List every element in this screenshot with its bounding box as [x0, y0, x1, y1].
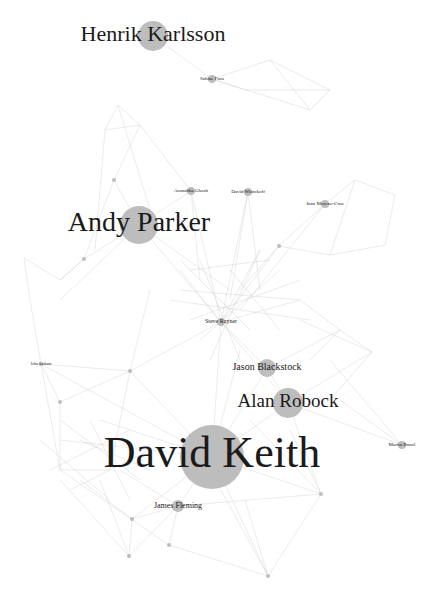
- node-label-david-keith: David Keith: [104, 428, 320, 477]
- graph-edge: [245, 500, 268, 576]
- graph-edge: [129, 506, 178, 556]
- node-label-james-fleming: James Fleming: [154, 501, 202, 510]
- graph-edge: [270, 60, 330, 90]
- graph-edge: [190, 280, 300, 320]
- node-label-juan-moreno-cruz: Juan Moreno-Cruz: [306, 201, 344, 206]
- node-label-john-latham: John Latham: [31, 361, 53, 366]
- graph-edge: [114, 125, 140, 180]
- graph-edge: [310, 330, 340, 360]
- node-small-1[interactable]: [112, 178, 116, 182]
- graph-edge: [30, 300, 41, 364]
- network-graph: Henrik KarlssonSabine FussAndy ParkerAru…: [0, 0, 443, 608]
- graph-edge: [130, 290, 150, 371]
- graph-edge: [105, 125, 140, 130]
- label-layer: Henrik KarlssonSabine FussAndy ParkerAru…: [31, 21, 416, 510]
- graph-edge: [330, 245, 385, 255]
- graph-edge: [330, 180, 355, 255]
- node-small-10[interactable]: [266, 574, 270, 578]
- graph-edge: [340, 400, 402, 445]
- graph-edge: [355, 180, 395, 195]
- graph-edge: [24, 258, 30, 300]
- node-small-3[interactable]: [82, 257, 86, 261]
- node-label-alan-robock: Alan Robock: [238, 390, 339, 411]
- node-small-5[interactable]: [58, 400, 62, 404]
- graph-edge: [130, 322, 221, 371]
- graph-edge: [60, 470, 169, 545]
- graph-edge: [129, 519, 132, 556]
- graph-edge: [248, 192, 260, 290]
- graph-edge: [41, 364, 60, 402]
- graph-edge: [310, 90, 330, 110]
- graph-edge: [60, 480, 129, 556]
- node-small-9[interactable]: [127, 554, 131, 558]
- node-label-arunabha-ghosh: Arunabha Ghosh: [174, 188, 209, 193]
- node-layer: [39, 21, 406, 578]
- graph-edge: [169, 545, 268, 576]
- node-small-2[interactable]: [277, 244, 281, 248]
- graph-edge: [221, 250, 260, 322]
- graph-edge: [118, 105, 150, 210]
- node-label-jason-blackstock: Jason Blackstock: [232, 361, 301, 372]
- graph-edge: [60, 371, 130, 402]
- graph-edge: [24, 258, 60, 280]
- graph-edge: [279, 246, 330, 255]
- graph-edge: [105, 105, 118, 130]
- graph-edge: [268, 494, 321, 576]
- graph-edge: [221, 246, 279, 322]
- node-small-4[interactable]: [128, 369, 132, 373]
- node-label-martin-bunzl: Martin Bunzl: [389, 442, 416, 447]
- graph-edge: [60, 259, 84, 280]
- graph-edge: [100, 480, 129, 556]
- node-label-sabine-fuss: Sabine Fuss: [200, 76, 224, 81]
- graph-edge: [140, 125, 190, 190]
- graph-edge: [221, 192, 248, 322]
- graph-edge: [385, 195, 395, 245]
- graph-edge: [279, 204, 325, 246]
- node-label-david-winickoff: David Winickoff: [231, 189, 265, 194]
- node-small-6[interactable]: [319, 492, 323, 496]
- node-small-7[interactable]: [130, 517, 134, 521]
- graph-edge: [240, 246, 279, 290]
- graph-edge: [169, 506, 178, 545]
- graph-edge: [139, 225, 221, 322]
- graph-edge: [300, 300, 340, 330]
- node-label-henrik-karlsson: Henrik Karlsson: [81, 21, 226, 46]
- graph-edge: [300, 320, 372, 352]
- graph-edge: [41, 364, 60, 470]
- edge-layer: [24, 36, 402, 576]
- graph-edge: [340, 330, 372, 352]
- node-label-steve-rayner: Steve Rayner: [205, 318, 237, 324]
- graph-edge: [200, 270, 280, 340]
- graph-edge: [80, 480, 132, 519]
- node-small-8[interactable]: [167, 543, 171, 547]
- graph-edge: [270, 60, 310, 110]
- graph-edge: [330, 360, 402, 445]
- graph-edge: [41, 364, 130, 371]
- node-label-andy-parker: Andy Parker: [68, 206, 211, 237]
